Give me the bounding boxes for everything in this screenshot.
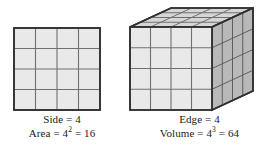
- cube-edge-equals: =: [205, 113, 211, 125]
- cube-edge-label: Edge: [179, 113, 202, 125]
- square-side-value: 4: [75, 113, 81, 125]
- cube-volume-exponent: 3: [212, 125, 216, 134]
- figure-root: Side = 4 Area = 42 = 16 Edge = 4 Volume …: [0, 0, 271, 153]
- cube-volume-result: 64: [228, 127, 239, 139]
- cube-volume-equals-2: =: [219, 127, 225, 139]
- cube-volume-label: Volume: [160, 127, 195, 139]
- cube-edge-value: 4: [214, 113, 220, 125]
- cube-figure: [130, 8, 253, 110]
- square-area-equals-2: =: [75, 127, 81, 139]
- square-caption-area-line: Area = 42 = 16: [0, 127, 124, 141]
- square-area-result: 16: [84, 127, 95, 139]
- cube-caption-volume-line: Volume = 43 = 64: [128, 127, 271, 141]
- square-caption-side-line: Side = 4: [0, 113, 124, 127]
- square-area-label: Area: [29, 127, 51, 139]
- square-side-equals: =: [66, 113, 72, 125]
- square-figure: [14, 28, 100, 110]
- square-caption: Side = 4 Area = 42 = 16: [0, 113, 124, 140]
- square-area-exponent: 2: [68, 125, 72, 134]
- square-area-equals-1: =: [53, 127, 59, 139]
- cube-caption: Edge = 4 Volume = 43 = 64: [128, 113, 271, 140]
- cube-caption-edge-line: Edge = 4: [128, 113, 271, 127]
- square-side-label: Side: [43, 113, 63, 125]
- cube-volume-equals-1: =: [197, 127, 203, 139]
